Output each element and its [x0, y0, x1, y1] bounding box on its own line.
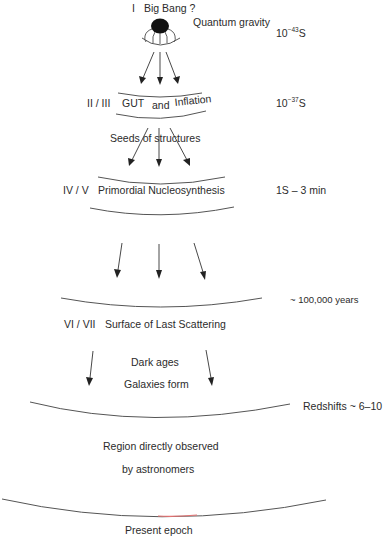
- gut-arc-bottom: [116, 111, 206, 118]
- nucleosynthesis-arc-bottom: [90, 207, 234, 215]
- and-label: and: [152, 99, 170, 111]
- stage-big-bang: I Big Bang ? Quantum gravity 10−43S: [132, 2, 306, 45]
- universe-timeline-diagram: I Big Bang ? Quantum gravity 10−43S II /…: [0, 0, 384, 546]
- time-gut: 10−37S: [276, 96, 306, 109]
- arrows-big-bang-to-gut: [139, 52, 180, 85]
- stage-numeral-ii-iii: II / III: [87, 97, 110, 109]
- region-observed-label-line2: by astronomers: [122, 463, 194, 475]
- gut-label: GUT: [122, 97, 145, 109]
- galaxies-form-label: Galaxies form: [124, 378, 189, 390]
- big-bang-arc: [142, 38, 180, 45]
- last-scattering-arc: [61, 298, 262, 307]
- seeds-of-structures-label: Seeds of structures: [110, 132, 200, 144]
- nucleosynthesis-arc-top: [98, 177, 225, 184]
- dark-ages-label: Dark ages: [131, 356, 179, 368]
- singularity-blob-icon: [151, 19, 169, 34]
- time-planck: 10−43S: [276, 26, 306, 39]
- stage-numeral-iv-v: IV / V: [63, 184, 89, 196]
- arrows-nucleosynthesis-to-last-scattering: [114, 243, 206, 280]
- stage-nucleosynthesis: IV / V Primordial Nucleosynthesis 1S – 3…: [63, 177, 326, 215]
- surface-of-last-scattering-label: Surface of Last Scattering: [105, 318, 226, 330]
- big-bang-label: Big Bang ?: [144, 2, 196, 14]
- quantum-gravity-label: Quantum gravity: [193, 16, 271, 28]
- time-100000-years: ~ 100,000 years: [290, 294, 359, 305]
- redshift-arc: [30, 402, 290, 418]
- stage-gut-inflation: II / III GUT and Inflation 10−37S Seeds …: [87, 92, 306, 144]
- region-observed-label-line1: Region directly observed: [103, 440, 219, 452]
- stage-observed-region: Region directly observed by astronomers: [103, 440, 219, 475]
- present-epoch-label: Present epoch: [125, 524, 193, 536]
- stage-present-epoch: Present epoch: [2, 499, 326, 536]
- primordial-nucleosynthesis-label: Primordial Nucleosynthesis: [98, 184, 225, 196]
- time-nucleosynthesis: 1S – 3 min: [276, 184, 326, 196]
- stage-dark-ages: Dark ages Galaxies form Redshifts ~ 6–10: [30, 350, 382, 418]
- redshift-label: Redshifts ~ 6–10: [303, 400, 382, 412]
- stage-numeral-i: I: [132, 2, 135, 14]
- stage-last-scattering: ~ 100,000 years VI / VII Surface of Last…: [61, 294, 359, 330]
- stage-numeral-vi-vii: VI / VII: [64, 318, 96, 330]
- present-epoch-arc: [2, 499, 326, 517]
- inflation-label: Inflation: [174, 92, 212, 108]
